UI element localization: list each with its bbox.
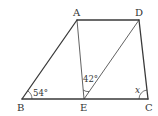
segment-ae [77,20,84,99]
trapezoid-diagram: A D B E C 54° 42° x [0,0,158,116]
segment-de [84,20,139,99]
vertex-label-a: A [72,7,81,18]
vertex-label-c: C [145,102,153,113]
vertex-label-b: B [17,102,24,113]
segment-dc [139,20,148,99]
angle-arc-e [83,90,89,92]
segment-ab [22,20,77,99]
angle-label-e: 42° [83,74,98,84]
angle-arc-c [139,90,147,99]
vertex-label-d: D [135,7,143,18]
angle-label-c: x [135,85,140,95]
vertex-label-e: E [80,102,87,113]
angle-arc-b [28,91,32,99]
angle-label-b: 54° [33,88,48,98]
